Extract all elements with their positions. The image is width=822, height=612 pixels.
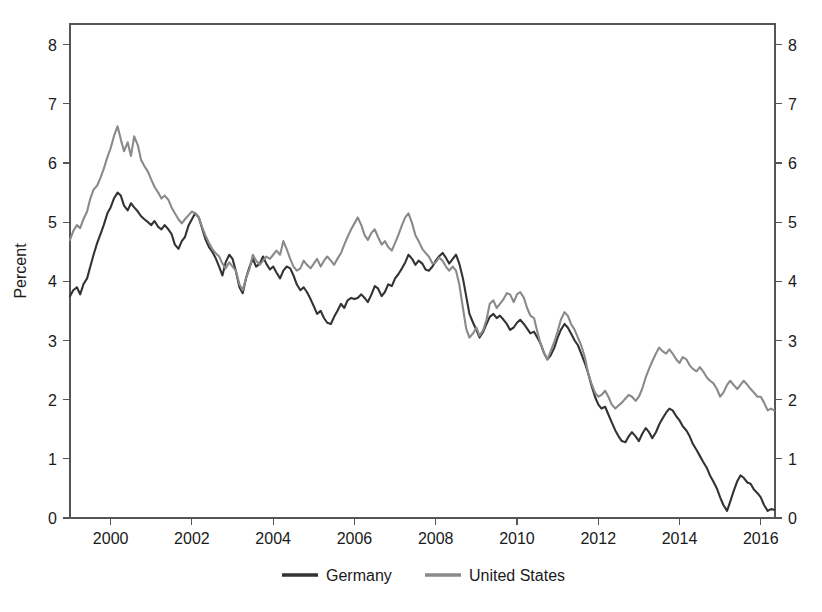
y-tick-label-left: 7 — [48, 96, 57, 113]
y-tick-label-right: 2 — [788, 392, 797, 409]
y-axis-label: Percent — [12, 243, 29, 299]
x-tick-label: 2002 — [174, 530, 210, 547]
y-tick-label-left: 8 — [48, 37, 57, 54]
x-tick-label: 2006 — [337, 530, 373, 547]
line-chart-figure: 200020022004200620082010201220142016 012… — [0, 0, 822, 612]
x-tick-label: 2000 — [93, 530, 129, 547]
x-tick-label: 2014 — [662, 530, 698, 547]
y-tick-label-right: 3 — [788, 333, 797, 350]
x-tick-label: 2016 — [743, 530, 779, 547]
figure-background — [0, 0, 822, 612]
y-tick-label-right: 4 — [788, 273, 797, 290]
y-tick-label-right: 0 — [788, 510, 797, 527]
y-tick-label-left: 4 — [48, 273, 57, 290]
y-tick-label-left: 6 — [48, 155, 57, 172]
y-tick-label-right: 1 — [788, 451, 797, 468]
y-tick-label-left: 5 — [48, 214, 57, 231]
x-tick-label: 2008 — [418, 530, 454, 547]
legend-label: Germany — [326, 567, 392, 584]
y-tick-label-right: 8 — [788, 37, 797, 54]
x-tick-label: 2012 — [580, 530, 616, 547]
y-tick-label-left: 3 — [48, 333, 57, 350]
y-tick-label-right: 6 — [788, 155, 797, 172]
y-tick-label-right: 5 — [788, 214, 797, 231]
x-tick-label: 2010 — [499, 530, 535, 547]
y-tick-label-left: 0 — [48, 510, 57, 527]
legend-label: United States — [469, 567, 565, 584]
x-tick-label: 2004 — [255, 530, 291, 547]
y-tick-label-left: 2 — [48, 392, 57, 409]
y-tick-label-right: 7 — [788, 96, 797, 113]
y-tick-label-left: 1 — [48, 451, 57, 468]
